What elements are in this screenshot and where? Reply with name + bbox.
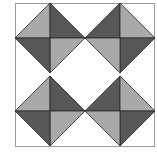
quilt-block-diagram	[0, 0, 157, 153]
